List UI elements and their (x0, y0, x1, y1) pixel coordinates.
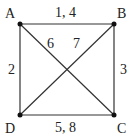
edge-label-ac: 6 (47, 37, 54, 51)
vertex-d (18, 113, 23, 118)
graph-canvas (0, 0, 134, 139)
edge-label-dc: 5, 8 (55, 121, 76, 135)
edge-label-ab: 1, 4 (55, 6, 76, 20)
vertex-c (112, 113, 117, 118)
vertex-b (112, 22, 117, 27)
vertex-label-b: B (117, 7, 126, 21)
edge-label-ad: 2 (8, 63, 15, 77)
edge-label-bc: 3 (120, 63, 127, 77)
vertex-label-d: D (5, 122, 15, 136)
vertex-a (18, 22, 23, 27)
vertex-label-a: A (5, 7, 15, 21)
vertex-label-c: C (117, 122, 126, 136)
edge-label-bd: 7 (73, 37, 80, 51)
